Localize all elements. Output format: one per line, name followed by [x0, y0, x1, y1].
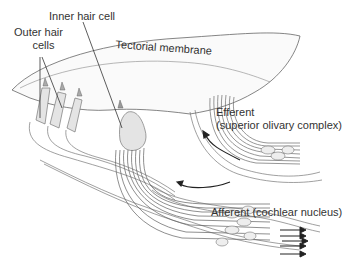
- efferent-cell-bodies: [261, 146, 294, 160]
- efferent-label: Efferent (superior olivary complex): [216, 106, 342, 132]
- efferent-arrows: [177, 131, 240, 188]
- afferent-arrows: [280, 227, 308, 257]
- outer-hair-cells-label: Outer hair cells: [14, 26, 63, 52]
- efferent-label-line1: Efferent: [216, 106, 342, 119]
- efferent-label-line2: (superior olivary complex): [216, 119, 342, 132]
- outer-hair-cells-label-line1: Outer hair: [14, 26, 63, 39]
- inner-hair-cell-label: Inner hair cell: [49, 10, 115, 23]
- outer-hair-cells-label-line2: cells: [14, 39, 63, 52]
- afferent-fiber-bundle: [116, 148, 270, 240]
- afferent-label: Afferent (cochlear nucleus): [211, 206, 342, 219]
